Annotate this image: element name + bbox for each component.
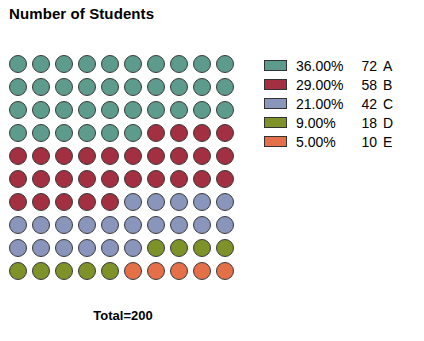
legend-percent-a: 36.00%	[296, 58, 354, 74]
waffle-cell	[54, 261, 77, 284]
total-caption: Total=200	[0, 308, 246, 324]
waffle-marker-c	[193, 193, 211, 211]
legend-item-b[interactable]: 29.00%58B	[264, 75, 422, 94]
waffle-marker-a	[78, 124, 96, 142]
waffle-cell	[100, 146, 123, 169]
waffle-marker-a	[170, 101, 188, 119]
chart-title: Number of Students	[9, 5, 154, 23]
waffle-cell	[31, 146, 54, 169]
waffle-cell	[146, 123, 169, 146]
waffle-cell	[146, 261, 169, 284]
legend-swatch-e	[264, 136, 287, 147]
waffle-cell	[192, 123, 215, 146]
waffle-marker-a	[193, 55, 211, 73]
waffle-cell	[123, 169, 146, 192]
legend-item-c[interactable]: 21.00%42C	[264, 94, 422, 113]
waffle-marker-a	[9, 55, 27, 73]
waffle-marker-d	[32, 262, 50, 280]
waffle-marker-b	[216, 124, 234, 142]
waffle-grid	[8, 54, 238, 284]
waffle-marker-c	[216, 216, 234, 234]
waffle-marker-b	[78, 170, 96, 188]
waffle-marker-b	[147, 170, 165, 188]
waffle-cell	[31, 77, 54, 100]
waffle-cell	[77, 146, 100, 169]
waffle-cell	[169, 238, 192, 261]
waffle-cell	[31, 123, 54, 146]
waffle-cell	[123, 146, 146, 169]
waffle-marker-b	[32, 147, 50, 165]
waffle-cell	[215, 100, 238, 123]
waffle-marker-b	[55, 147, 73, 165]
chart-legend: 36.00%72A29.00%58B21.00%42C9.00%18D5.00%…	[264, 56, 422, 151]
waffle-marker-c	[101, 216, 119, 234]
waffle-cell	[169, 77, 192, 100]
legend-swatch-d	[264, 117, 287, 128]
waffle-cell	[8, 100, 31, 123]
waffle-marker-b	[147, 124, 165, 142]
legend-item-d[interactable]: 9.00%18D	[264, 113, 422, 132]
waffle-marker-c	[78, 239, 96, 257]
waffle-cell	[100, 261, 123, 284]
waffle-marker-d	[147, 239, 165, 257]
waffle-cell	[100, 192, 123, 215]
waffle-cell	[192, 146, 215, 169]
waffle-cell	[77, 54, 100, 77]
legend-count-b: 58	[354, 77, 377, 93]
legend-label-a: A	[383, 58, 392, 74]
waffle-marker-a	[32, 124, 50, 142]
legend-item-a[interactable]: 36.00%72A	[264, 56, 422, 75]
waffle-cell	[215, 123, 238, 146]
waffle-marker-b	[101, 170, 119, 188]
waffle-cell	[169, 146, 192, 169]
waffle-marker-a	[193, 101, 211, 119]
waffle-cell	[215, 261, 238, 284]
waffle-marker-c	[55, 216, 73, 234]
waffle-cell	[77, 192, 100, 215]
legend-count-c: 42	[354, 96, 377, 112]
waffle-cell	[192, 100, 215, 123]
legend-percent-e: 5.00%	[296, 134, 354, 150]
waffle-cell	[77, 77, 100, 100]
waffle-cell	[146, 146, 169, 169]
waffle-marker-c	[32, 216, 50, 234]
waffle-cell	[215, 54, 238, 77]
waffle-marker-a	[32, 101, 50, 119]
waffle-marker-a	[55, 55, 73, 73]
legend-count-a: 72	[354, 58, 377, 74]
waffle-cell	[169, 261, 192, 284]
waffle-cell	[8, 54, 31, 77]
waffle-cell	[146, 77, 169, 100]
waffle-marker-a	[9, 101, 27, 119]
waffle-marker-b	[216, 147, 234, 165]
legend-count-d: 18	[354, 115, 377, 131]
waffle-cell	[31, 215, 54, 238]
waffle-cell	[100, 100, 123, 123]
waffle-marker-c	[193, 216, 211, 234]
waffle-marker-c	[124, 239, 142, 257]
waffle-marker-c	[147, 216, 165, 234]
waffle-cell	[123, 54, 146, 77]
legend-item-e[interactable]: 5.00%10E	[264, 132, 422, 151]
waffle-cell	[77, 238, 100, 261]
waffle-marker-c	[9, 216, 27, 234]
waffle-cell	[146, 215, 169, 238]
waffle-cell	[8, 169, 31, 192]
waffle-marker-b	[124, 147, 142, 165]
waffle-marker-c	[55, 239, 73, 257]
waffle-marker-a	[32, 78, 50, 96]
waffle-marker-c	[147, 193, 165, 211]
waffle-cell	[215, 169, 238, 192]
legend-label-c: C	[383, 96, 393, 112]
waffle-marker-c	[78, 216, 96, 234]
waffle-cell	[192, 192, 215, 215]
waffle-cell	[31, 261, 54, 284]
waffle-cell	[123, 123, 146, 146]
waffle-cell	[54, 146, 77, 169]
waffle-cell	[8, 238, 31, 261]
waffle-cell	[31, 192, 54, 215]
waffle-marker-a	[55, 78, 73, 96]
waffle-cell	[192, 215, 215, 238]
waffle-marker-a	[55, 124, 73, 142]
waffle-marker-b	[9, 170, 27, 188]
